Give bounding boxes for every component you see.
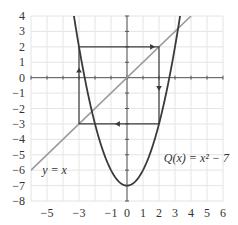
chart: −5−3−1012345643210−1−2−3−4−5−6−7−8 Q(x) … [0, 0, 238, 225]
y-tick-label: −4 [12, 132, 25, 146]
x-tick-label: 6 [220, 206, 226, 220]
x-tick-label: 3 [172, 206, 178, 220]
y-tick-label: −1 [12, 86, 25, 100]
x-tick-label: −3 [73, 206, 86, 220]
y-tick-label: −8 [12, 194, 25, 208]
y-tick-label: 3 [19, 24, 25, 38]
x-tick-label: −5 [41, 206, 54, 220]
y-tick-label: −7 [12, 179, 25, 193]
x-tick-label: 1 [140, 206, 146, 220]
parabola-label: Q(x) = x² − 7 [164, 151, 230, 165]
tick-labels: −5−3−1012345643210−1−2−3−4−5−6−7−8 [12, 9, 226, 220]
x-tick-label: −1 [105, 206, 118, 220]
x-tick-label: 5 [204, 206, 210, 220]
cobweb-arrow-right [150, 44, 155, 50]
y-tick-label: −6 [12, 163, 25, 177]
cobweb-arrow-down [156, 86, 162, 91]
cobweb-arrow-left [115, 121, 120, 127]
x-tick-label: 4 [188, 206, 194, 220]
y-tick-label: −3 [12, 117, 25, 131]
y-tick-label: 1 [19, 55, 25, 69]
x-tick-label: 0 [124, 206, 130, 220]
x-tick-label: 2 [156, 206, 162, 220]
y-tick-label: −2 [12, 102, 25, 116]
y-tick-label: 4 [19, 9, 25, 23]
y-tick-label: 0 [19, 71, 25, 85]
cobweb-arrow-up [76, 67, 82, 72]
y-tick-label: 2 [19, 40, 25, 54]
y-tick-label: −5 [12, 148, 25, 162]
identity-line-label: y = x [41, 163, 67, 177]
